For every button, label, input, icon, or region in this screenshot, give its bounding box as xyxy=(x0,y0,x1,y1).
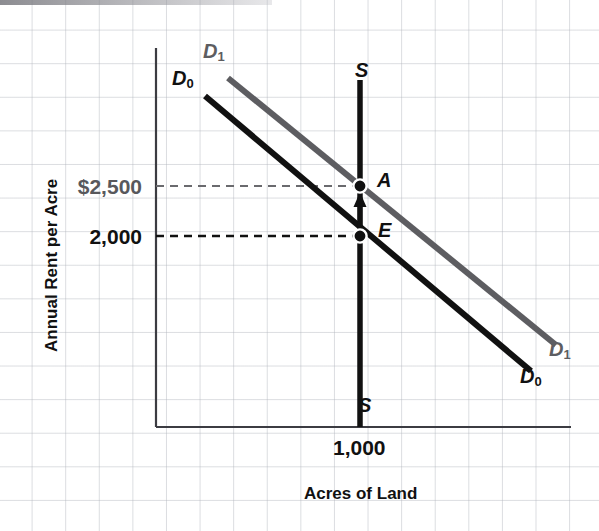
demand-label-d0-lower: D0 xyxy=(520,366,542,386)
y-tick-2500: $2,500 xyxy=(20,176,142,197)
y-tick-2000: 2,000 xyxy=(20,226,142,247)
demand-label-d0-upper: D0 xyxy=(172,68,194,88)
d1-upper-subscript: 1 xyxy=(217,49,224,64)
x-axis-title: Acres of Land xyxy=(304,485,417,502)
d1-upper-letter: D xyxy=(203,40,217,62)
d0-upper-letter: D xyxy=(172,67,186,89)
point-label-a: A xyxy=(377,170,391,190)
supply-label-bottom: S xyxy=(358,395,371,415)
x-tick-1000: 1,000 xyxy=(333,437,386,458)
demand-label-d1-lower: D1 xyxy=(549,339,571,359)
point-marker-a xyxy=(353,179,366,192)
demand-curve-d1 xyxy=(228,78,556,345)
d0-lower-letter: D xyxy=(520,365,534,387)
chart-canvas: Annual Rent per Acre $2,500 2,000 1,000 … xyxy=(0,0,599,531)
d0-lower-subscript: 0 xyxy=(534,374,541,389)
d0-upper-subscript: 0 xyxy=(186,76,193,91)
demand-label-d1-upper: D1 xyxy=(203,41,225,61)
d1-lower-subscript: 1 xyxy=(563,347,570,362)
chart-svg xyxy=(0,0,599,531)
point-label-e: E xyxy=(378,220,391,240)
demand-curve-d0 xyxy=(205,96,531,371)
y-axis-title: Annual Rent per Acre xyxy=(42,179,62,352)
point-marker-e xyxy=(353,229,366,242)
shift-arrow-head xyxy=(354,192,367,207)
supply-label-top: S xyxy=(355,60,368,80)
d1-lower-letter: D xyxy=(549,338,563,360)
